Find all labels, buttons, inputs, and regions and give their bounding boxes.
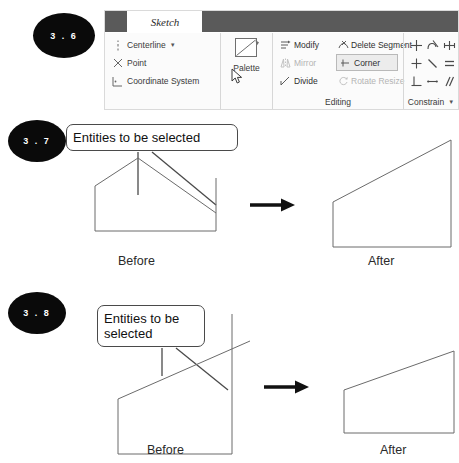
chevron-down-icon[interactable]: ▼ (448, 99, 454, 105)
ribbon-group-editing: Modify Delete Segment (272, 33, 403, 109)
ribbon-item-label: Corner (354, 58, 380, 68)
ribbon-item-centerline[interactable]: Centerline ▼ (111, 37, 176, 53)
chevron-down-icon[interactable]: ▼ (170, 42, 176, 48)
ribbon-tab-bar: Sketch (105, 11, 458, 33)
midpoint-constraint-icon[interactable] (410, 57, 423, 70)
figure-3-8-before-drawing (0, 296, 250, 456)
ribbon-item-label: Centerline (127, 40, 166, 50)
ribbon-item-label: Divide (294, 76, 318, 86)
collinear-constraint-icon[interactable] (426, 57, 439, 70)
figure-3-8-after-drawing (330, 348, 459, 443)
ribbon-topbar-right-block (202, 11, 458, 32)
right-arrow-icon (248, 196, 298, 214)
perpendicular-constraint-icon[interactable] (410, 75, 423, 88)
ribbon-item-label: Coordinate System (127, 76, 199, 86)
ribbon-group-sketch-entities: Centerline ▼ Point (105, 33, 220, 109)
sketch-ribbon-toolbar: Sketch Centerline ▼ (104, 10, 459, 110)
ribbon-group-label-editing: Editing (273, 97, 403, 107)
ribbon-item-divide[interactable]: Divide (277, 73, 337, 88)
ribbon-item-mirror: Mirror (277, 55, 337, 70)
ribbon-item-label: Mirror (294, 58, 316, 68)
ribbon-item-point[interactable]: Point (111, 55, 146, 71)
constrain-label: Constrain (408, 97, 444, 107)
ribbon-topbar-left-block (105, 11, 127, 32)
right-arrow-icon (262, 378, 312, 396)
ribbon-item-label: Rotate Resize (351, 76, 404, 86)
ribbon-item-palette[interactable]: Palette (221, 37, 272, 73)
figure-3-8-before-label: Before (147, 443, 184, 457)
figure-3-7-after-label: After (368, 254, 394, 268)
rotate-resize-icon (338, 76, 349, 86)
figure-3-8-after-label: After (380, 443, 406, 457)
ribbon-body: Centerline ▼ Point (105, 33, 458, 109)
divide-icon (279, 76, 292, 86)
ribbon-group-constrain: Constrain ▼ (403, 33, 458, 109)
figure-3-7-after-drawing (320, 135, 459, 250)
equal-constraint-icon[interactable] (443, 57, 456, 70)
ribbon-item-delete-segment[interactable]: Delete Segment (336, 37, 402, 52)
corner-icon (339, 58, 352, 68)
symmetric-constraint-icon[interactable] (443, 39, 456, 52)
ribbon-item-coordinate-system[interactable]: Coordinate System (111, 73, 199, 89)
figure-3-7-before-label: Before (118, 254, 155, 268)
figure-badge-3-6: 3 . 6 (33, 13, 95, 58)
palette-icon (234, 37, 260, 61)
ribbon-group-label-constrain[interactable]: Constrain ▼ (404, 97, 458, 107)
modify-icon (279, 40, 292, 50)
callout-text: Entities to be selected (73, 130, 200, 145)
ribbon-item-label: Point (127, 58, 146, 68)
ribbon-group-palette: Palette (220, 33, 272, 109)
centerline-icon (111, 40, 124, 51)
coincident-constraint-icon[interactable] (410, 39, 423, 52)
constraint-icon-grid (408, 36, 458, 90)
figure-badge-label: 3 . 6 (50, 31, 78, 41)
ribbon-item-modify[interactable]: Modify (277, 37, 337, 52)
mouse-pointer-icon (231, 68, 244, 85)
horizontal-constraint-icon[interactable] (426, 75, 439, 88)
tab-sketch[interactable]: Sketch (129, 11, 201, 32)
figure-3-7-before-drawing (0, 145, 250, 260)
ribbon-item-rotate-resize: Rotate Resize (336, 73, 402, 88)
parallel-constraint-icon[interactable] (443, 75, 456, 88)
tangent-constraint-icon[interactable] (426, 39, 439, 52)
coordinate-system-icon (111, 76, 124, 87)
point-icon (111, 58, 124, 68)
ribbon-item-corner[interactable]: Corner (336, 54, 398, 71)
delete-segment-icon (338, 40, 349, 50)
ribbon-item-label: Modify (294, 40, 319, 50)
mirror-icon (279, 58, 292, 68)
